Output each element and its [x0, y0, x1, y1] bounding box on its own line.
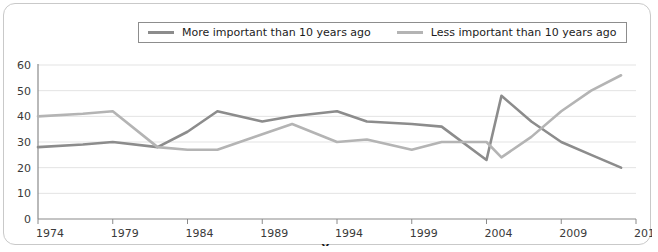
legend-item-more-important[interactable]: More important than 10 years ago — [148, 27, 371, 38]
x-axis-tick-label: 1974 — [36, 227, 64, 240]
x-axis-tick-label: 1984 — [186, 227, 214, 240]
y-axis-tick-label: 0 — [24, 213, 31, 226]
series-line-more-important — [38, 96, 621, 168]
y-axis-tick-label: 40 — [17, 110, 31, 123]
x-axis-tick-label: 2014 — [634, 227, 652, 240]
x-axis-tick-label: 1994 — [335, 227, 363, 240]
x-axis-tick-label: 2004 — [485, 227, 513, 240]
legend-line-icon — [148, 31, 174, 34]
y-axis-tick-label: 20 — [17, 162, 31, 175]
x-axis-tick-label: 1989 — [260, 227, 288, 240]
chart-legend: More important than 10 years ago Less im… — [138, 22, 627, 43]
legend-item-label: Less important than 10 years ago — [431, 27, 617, 38]
legend-item-less-important[interactable]: Less important than 10 years ago — [397, 27, 617, 38]
chart-card: 0102030405060197419791984198919941999200… — [3, 3, 651, 245]
y-axis-tick-label: 60 — [17, 59, 31, 72]
x-axis-title: Years — [321, 243, 353, 246]
x-axis-tick-label: 1999 — [410, 227, 438, 240]
legend-item-label: More important than 10 years ago — [182, 27, 371, 38]
y-axis-tick-label: 10 — [17, 187, 31, 200]
x-axis-tick-label: 2009 — [559, 227, 587, 240]
x-axis-tick-label: 1979 — [111, 227, 139, 240]
y-axis-tick-label: 50 — [17, 85, 31, 98]
y-axis-tick-label: 30 — [17, 136, 31, 149]
legend-line-icon — [397, 31, 423, 34]
